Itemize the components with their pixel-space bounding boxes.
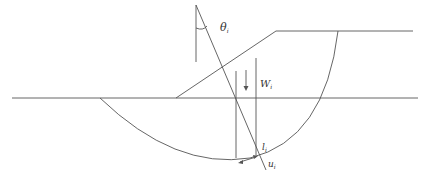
normal-line bbox=[196, 5, 266, 170]
weight-label: Wi bbox=[260, 78, 272, 90]
theta-label: θi bbox=[220, 21, 229, 34]
slope-stability-diagram: θi Wi li ui bbox=[0, 0, 427, 184]
weight-arrowhead bbox=[244, 86, 249, 91]
pore-pressure-label: ui bbox=[268, 159, 276, 170]
base-arrowhead-left bbox=[238, 160, 243, 164]
length-label: li bbox=[262, 142, 267, 153]
slip-surface-arc bbox=[100, 31, 338, 160]
